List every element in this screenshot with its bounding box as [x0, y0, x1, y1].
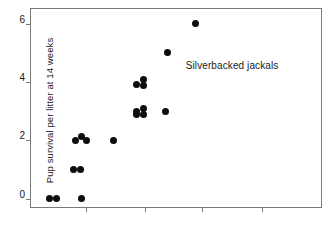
y-tick-label: 0: [11, 194, 25, 195]
data-point: [46, 195, 53, 202]
chart-page: Pup survival per litter at 14 weeks 0246…: [0, 0, 328, 227]
y-axis-label: Pup survival per litter at 14 weeks: [44, 16, 55, 206]
data-point: [78, 195, 85, 202]
data-point: [164, 49, 171, 56]
data-point: [162, 108, 169, 115]
x-tick-mark: [202, 207, 203, 212]
y-tick-label: 4: [11, 77, 25, 78]
plot-area: Pup survival per litter at 14 weeks 0246…: [30, 8, 322, 208]
data-point: [133, 81, 140, 88]
y-tick-mark: [26, 82, 31, 83]
data-point: [83, 137, 90, 144]
data-point: [140, 111, 147, 118]
data-point: [77, 166, 84, 173]
x-tick-mark: [145, 207, 146, 212]
series-annotation: Silverbacked jackals: [186, 60, 279, 71]
data-point: [53, 195, 60, 202]
y-tick-label: 2: [11, 135, 25, 136]
y-tick-mark: [26, 199, 31, 200]
y-tick-label: 6: [11, 19, 25, 20]
y-tick-mark: [26, 140, 31, 141]
data-point: [140, 82, 147, 89]
x-tick-mark: [262, 207, 263, 212]
y-tick-mark: [26, 24, 31, 25]
data-point: [110, 137, 117, 144]
x-tick-mark: [86, 207, 87, 212]
data-point: [192, 20, 199, 27]
data-point: [70, 166, 77, 173]
